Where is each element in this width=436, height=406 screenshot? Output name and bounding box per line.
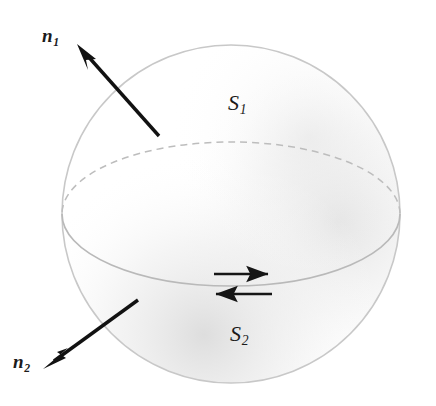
surface-label-s1: S1	[228, 92, 247, 117]
surface-label-s2: S2	[230, 323, 249, 348]
surface-label-s2-subscript: 2	[241, 333, 249, 348]
figure-canvas	[0, 0, 436, 406]
vector-label-n1: n1	[42, 26, 59, 49]
vector-label-n1-subscript: 1	[53, 36, 60, 49]
vector-label-n1-base: n	[42, 25, 53, 46]
vector-label-n2-base: n	[13, 351, 24, 372]
n1-arrowhead	[77, 44, 96, 70]
n2-arrowhead	[43, 348, 68, 369]
surface-label-s1-base: S	[228, 90, 239, 115]
vector-label-n2-subscript: 2	[24, 362, 31, 375]
sphere-normals-figure: n1 n2 S1 S2	[0, 0, 436, 406]
vector-label-n2: n2	[13, 352, 30, 375]
surface-label-s2-base: S	[230, 321, 241, 346]
surface-label-s1-subscript: 1	[239, 102, 247, 117]
